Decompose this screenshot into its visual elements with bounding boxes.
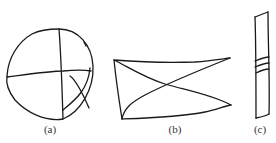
panel-c-band-2 [255, 63, 269, 67]
panel-a-horizontal-line [7, 70, 91, 77]
panel-b-drawing [114, 58, 231, 119]
panel-b-label: (b) [169, 124, 182, 135]
panel-c-band-1 [255, 57, 269, 61]
panel-a-label: (a) [44, 124, 56, 135]
panel-c-band-3 [256, 69, 269, 73]
panel-a-inner-arc [63, 68, 90, 110]
panel-c-label: (c) [254, 124, 266, 135]
panel-a-vertical-line [59, 29, 63, 119]
panel-a-circle-outline [7, 29, 93, 120]
panel-b-quadrilateral-outline [114, 58, 231, 119]
panel-c-strip-top-edge [255, 12, 268, 17]
panel-a-drawing [7, 29, 93, 120]
panel-c-drawing [255, 12, 269, 118]
panel-a-diagonal-stroke [70, 76, 89, 108]
panel-c-strip-bottom-edge [256, 114, 269, 118]
figure-canvas [0, 0, 276, 143]
